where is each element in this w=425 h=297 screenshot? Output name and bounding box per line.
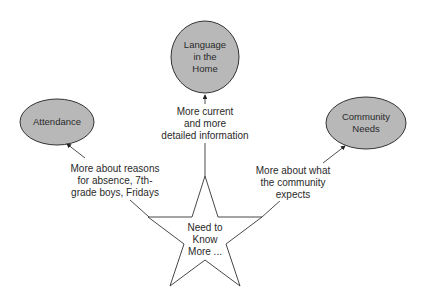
- label-line: Attendance: [20, 116, 94, 128]
- edge-attendance-lower: [130, 200, 149, 217]
- node-language-label: Language in the Home: [171, 39, 239, 75]
- diagram-canvas: Language in the Home Attendance Communit…: [0, 0, 425, 297]
- label-line: Needs: [326, 123, 406, 135]
- edge-attendance-label: More about reasons for absence, 7th- gra…: [65, 163, 165, 199]
- label-line: the community: [250, 177, 336, 189]
- label-line: More current: [150, 106, 260, 118]
- edge-community-label: More about what the community expects: [250, 165, 336, 201]
- label-line: More about reasons: [65, 163, 165, 175]
- label-line: Know: [175, 234, 235, 246]
- label-line: and more: [150, 118, 260, 130]
- edge-community-lower: [262, 199, 282, 217]
- label-line: More ...: [175, 246, 235, 258]
- label-line: Language: [171, 39, 239, 51]
- edge-community-upper: [323, 146, 345, 163]
- label-line: grade boys, Fridays: [65, 187, 165, 199]
- label-line: Need to: [175, 222, 235, 234]
- label-line: Home: [171, 63, 239, 75]
- label-line: More about what: [250, 165, 336, 177]
- edge-attendance-upper: [67, 144, 85, 158]
- label-line: expects: [250, 189, 336, 201]
- label-line: for absence, 7th-: [65, 175, 165, 187]
- label-line: detailed information: [150, 130, 260, 142]
- label-line: Community: [326, 111, 406, 123]
- label-line: in the: [171, 51, 239, 63]
- edge-language-label: More current and more detailed informati…: [150, 106, 260, 142]
- node-attendance-label: Attendance: [20, 116, 94, 128]
- center-star-label: Need to Know More ...: [175, 222, 235, 258]
- node-community-label: Community Needs: [326, 111, 406, 135]
